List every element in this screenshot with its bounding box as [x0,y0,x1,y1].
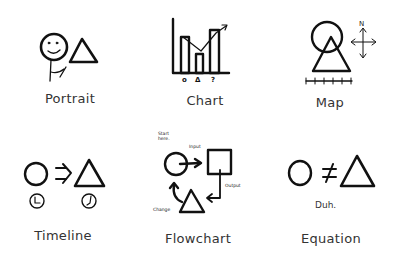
flowchart-output-annotation: Output [225,183,241,188]
chart-panel: o Δ ? Chart [140,0,270,130]
flowchart-input-annotation: Input [189,144,201,149]
chart-axis-label-circle: o [182,76,187,84]
map-label: Map [265,95,395,110]
equation-label: Equation [266,231,396,246]
timeline-label: Timeline [0,228,128,243]
portrait-panel: Portrait [0,0,140,130]
map-panel: N Map [270,0,398,130]
stick-figure-icon [0,0,140,130]
flowchart-label: Flowchart [133,231,263,246]
chart-axis-label-question: ? [211,76,215,84]
compass-north-label: N [359,20,364,28]
flowchart-start-annotation: Start here. [158,131,174,141]
timeline-panel: Timeline [0,130,140,265]
flowchart-panel: Start here. Input Output Change Flowchar… [140,120,270,265]
chart-label: Chart [140,93,270,108]
equation-panel: Duh. Equation [270,130,398,265]
map-icon: N [270,0,398,130]
bar-chart-icon: o Δ ? [140,0,270,130]
equation-caption: Duh. [315,200,336,210]
timeline-icon [0,130,140,265]
portrait-label: Portrait [5,91,135,106]
flowchart-change-annotation: Change [153,207,170,212]
chart-axis-label-triangle: Δ [195,76,201,84]
